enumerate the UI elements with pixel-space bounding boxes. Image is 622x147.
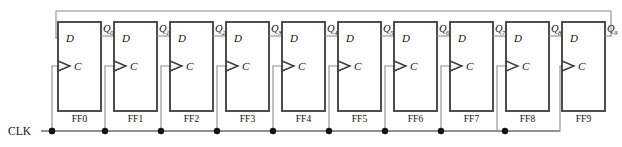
ff-name-label-ff9: FF9 [576,114,592,124]
c-input-label-ff7: C [466,60,474,72]
c-input-label-ff5: C [354,60,362,72]
c-input-label-ff1: C [130,60,138,72]
ff-name-label-ff1: FF1 [128,114,144,124]
clock-junction-dot-ff1 [102,128,108,134]
ff-name-label-ff6: FF6 [408,114,424,124]
ff-name-label-ff3: FF3 [240,114,256,124]
c-input-label-ff2: C [186,60,194,72]
q-output-subscript-ff9: 9 [614,29,618,37]
c-input-label-ff0: C [74,60,82,72]
clock-junction-dot-ff7 [438,128,444,134]
clock-junction-dot-ff6 [382,128,388,134]
ff-name-label-ff4: FF4 [296,114,312,124]
d-input-label-ff7: D [457,32,466,44]
ff-name-label-ff8: FF8 [520,114,536,124]
clock-input-label: CLK [8,125,32,137]
d-input-label-ff4: D [289,32,298,44]
c-input-label-ff6: C [410,60,418,72]
d-input-label-ff9: D [569,32,578,44]
ff-name-label-ff0: FF0 [72,114,88,124]
ff-name-label-ff5: FF5 [352,114,368,124]
c-input-label-ff8: C [522,60,530,72]
ff-name-label-ff7: FF7 [464,114,480,124]
circuit-diagram: D C FF0 Q 0 D C FF1 Q 1 D C [0,0,622,147]
q-output-subscript-ff1: 1 [166,29,170,37]
d-input-label-ff5: D [345,32,354,44]
clock-junction-dot-ff4 [270,128,276,134]
d-input-label-ff8: D [513,32,522,44]
d-input-label-ff1: D [121,32,130,44]
flipflop-stage-ff9[interactable]: D C FF9 Q 9 [560,22,618,131]
c-input-label-ff4: C [298,60,306,72]
clock-junction-dot-ff2 [158,128,164,134]
clock-source-dot [49,128,55,134]
d-input-label-ff3: D [233,32,242,44]
c-input-label-ff3: C [242,60,250,72]
flipflop-stage-ff8[interactable]: D C FF8 Q 8 [497,22,563,134]
clock-junction-dot-ff8 [502,128,508,134]
ff-name-label-ff2: FF2 [184,114,200,124]
d-input-label-ff0: D [65,32,74,44]
clock-junction-dot-ff5 [326,128,332,134]
clock-junction-dot-ff3 [214,128,220,134]
d-input-label-ff6: D [401,32,410,44]
d-input-label-ff2: D [177,32,186,44]
circuit-svg: D C FF0 Q 0 D C FF1 Q 1 D C [0,0,622,147]
c-input-label-ff9: C [578,60,586,72]
